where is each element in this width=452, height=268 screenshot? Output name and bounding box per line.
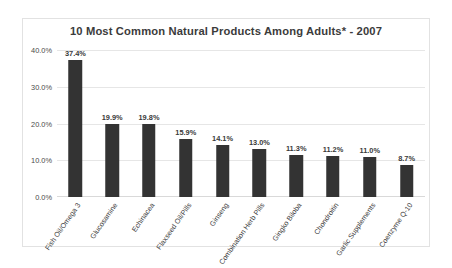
bar-group[interactable]: 11.2%Chondroitin [315,50,352,197]
bar[interactable] [105,124,119,197]
bar[interactable] [289,155,303,197]
x-axis-category-label: Echinacea [130,201,157,234]
x-axis-category-label: Garlic Supplements [334,201,377,258]
bar[interactable] [216,145,230,197]
plot-area: 0.0%10.0%20.0%30.0%40.0% 37.4%Fish Oil/O… [57,50,425,197]
bar[interactable] [69,60,83,197]
x-axis-category-label: Fish Oil/Omega 3 [43,201,82,252]
x-axis-category-label: Chondroitin [312,201,340,236]
bar[interactable] [363,157,377,197]
chart-title: 10 Most Common Natural Products Among Ad… [23,25,429,37]
bar-group[interactable]: 19.9%Glucosamine [94,50,131,197]
bar-value-label: 37.4% [65,49,86,58]
bar-value-label: 15.9% [175,128,196,137]
bar-value-label: 11.3% [286,144,307,153]
bar-group[interactable]: 11.0%Garlic Supplements [351,50,388,197]
chart-container: 10 Most Common Natural Products Among Ad… [22,18,430,247]
y-axis-tick-label: 20.0% [31,119,52,128]
bar-value-label: 11.0% [360,146,381,155]
bar-group[interactable]: 8.7%Coenzyme Q-10 [388,50,425,197]
y-axis-tick-label: 10.0% [31,156,52,165]
bar-group[interactable]: 11.3%Gingko Biloba [278,50,315,197]
x-axis-category-label: Ginseng [207,201,230,228]
x-axis-category-label: Coenzyme Q-10 [377,201,414,249]
bar-value-label: 19.9% [102,113,123,122]
bar[interactable] [142,124,156,197]
bar[interactable] [253,149,267,197]
y-axis-tick-label: 0.0% [35,193,52,202]
bar-group[interactable]: 14.1%Ginseng [204,50,241,197]
y-axis-tick-label: 40.0% [31,46,52,55]
bar-value-label: 8.7% [398,154,415,163]
x-axis-category-label: Gingko Biloba [271,201,304,243]
bar-value-label: 19.8% [139,113,160,122]
y-axis-tick-label: 30.0% [31,82,52,91]
bar[interactable] [400,165,414,197]
bar[interactable] [326,156,340,197]
bar[interactable] [179,139,193,197]
bar-group[interactable]: 37.4%Fish Oil/Omega 3 [57,50,94,197]
bar-value-label: 13.0% [249,138,270,147]
bar-group[interactable]: 19.8%Echinacea [131,50,168,197]
bar-group[interactable]: 15.9%Flaxseed Oil/Pills [167,50,204,197]
x-axis-category-label: Glucosamine [88,201,119,241]
bar-group[interactable]: 13.0%Combination Herb Pills [241,50,278,197]
x-axis-category-label: Flaxseed Oil/Pills [154,201,193,251]
bar-value-label: 14.1% [212,134,233,143]
bar-value-label: 11.2% [323,145,344,154]
